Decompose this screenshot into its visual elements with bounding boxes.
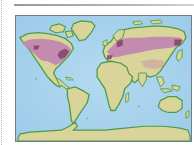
island-speck — [138, 106, 139, 107]
island-speck — [35, 78, 36, 79]
madagascar — [126, 93, 129, 103]
dotted-border — [1, 0, 2, 145]
world-map — [15, 15, 192, 142]
world-map-graphic — [16, 16, 191, 141]
divider — [14, 4, 194, 6]
map-panel — [0, 0, 194, 145]
island-speck — [86, 118, 87, 119]
